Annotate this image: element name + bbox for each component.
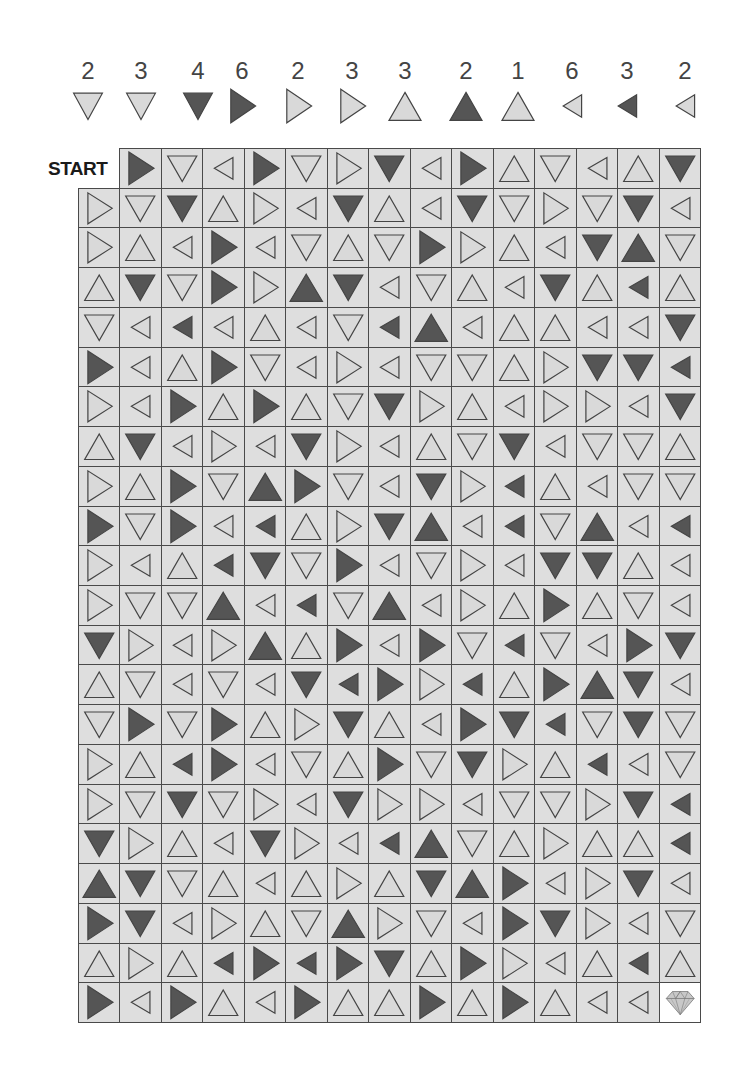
grid-cell[interactable] [493,267,535,308]
grid-cell[interactable] [534,863,576,904]
grid-cell[interactable] [327,426,369,467]
grid-cell[interactable] [202,545,244,586]
grid-cell[interactable] [119,466,161,507]
grid-cell[interactable] [451,188,493,229]
grid-cell[interactable] [285,466,327,507]
grid-cell[interactable] [617,545,659,586]
grid-cell[interactable] [285,943,327,984]
grid-cell[interactable] [78,982,120,1023]
grid-cell[interactable] [451,506,493,547]
grid-cell[interactable] [202,466,244,507]
grid-cell[interactable] [78,188,120,229]
grid-cell[interactable] [368,426,410,467]
grid-cell[interactable] [534,545,576,586]
grid-cell[interactable] [161,704,203,745]
grid-cell[interactable] [161,903,203,944]
grid-cell[interactable] [410,466,452,507]
grid-cell[interactable] [202,188,244,229]
grid-cell[interactable] [534,267,576,308]
grid-cell[interactable] [327,148,369,189]
grid-cell[interactable] [451,227,493,268]
grid-cell[interactable] [534,227,576,268]
grid-cell[interactable] [451,784,493,825]
grid-cell[interactable] [327,704,369,745]
grid-cell[interactable] [202,704,244,745]
grid-cell[interactable] [410,784,452,825]
grid-cell[interactable] [368,982,410,1023]
grid-cell[interactable] [161,386,203,427]
grid-cell[interactable] [285,823,327,864]
grid-cell[interactable] [493,506,535,547]
grid-cell[interactable] [368,545,410,586]
grid-cell[interactable] [617,585,659,626]
grid-cell[interactable] [451,267,493,308]
grid-cell[interactable] [327,506,369,547]
grid-cell[interactable] [617,744,659,785]
grid-cell[interactable] [285,863,327,904]
grid-cell[interactable] [451,744,493,785]
grid-cell[interactable] [119,585,161,626]
grid-cell[interactable] [78,625,120,666]
grid-cell[interactable] [78,307,120,348]
grid-cell[interactable] [119,545,161,586]
grid-cell[interactable] [327,347,369,388]
grid-cell[interactable] [78,386,120,427]
grid-cell[interactable] [78,704,120,745]
grid-cell[interactable] [576,704,618,745]
grid-cell[interactable] [493,664,535,705]
goal-cell[interactable] [659,982,701,1023]
grid-cell[interactable] [410,903,452,944]
grid-cell[interactable] [493,545,535,586]
grid-cell[interactable] [493,307,535,348]
grid-cell[interactable] [244,982,286,1023]
grid-cell[interactable] [493,744,535,785]
grid-cell[interactable] [78,823,120,864]
grid-cell[interactable] [617,386,659,427]
grid-cell[interactable] [493,347,535,388]
grid-cell[interactable] [202,664,244,705]
grid-cell[interactable] [493,903,535,944]
grid-cell[interactable] [451,943,493,984]
grid-cell[interactable] [659,426,701,467]
grid-cell[interactable] [327,903,369,944]
grid-cell[interactable] [493,188,535,229]
grid-cell[interactable] [410,744,452,785]
grid-cell[interactable] [451,863,493,904]
grid-cell[interactable] [410,664,452,705]
grid-cell[interactable] [493,943,535,984]
grid-cell[interactable] [202,744,244,785]
grid-cell[interactable] [534,466,576,507]
grid-cell[interactable] [78,784,120,825]
grid-cell[interactable] [410,545,452,586]
grid-cell[interactable] [285,545,327,586]
grid-cell[interactable] [410,267,452,308]
grid-cell[interactable] [534,982,576,1023]
grid-cell[interactable] [617,823,659,864]
grid-cell[interactable] [576,744,618,785]
grid-cell[interactable] [493,823,535,864]
grid-cell[interactable] [659,227,701,268]
grid-cell[interactable] [119,148,161,189]
grid-cell[interactable] [161,823,203,864]
grid-cell[interactable] [368,744,410,785]
grid-cell[interactable] [617,188,659,229]
grid-cell[interactable] [368,148,410,189]
grid-cell[interactable] [368,784,410,825]
grid-cell[interactable] [285,148,327,189]
grid-cell[interactable] [202,863,244,904]
grid-cell[interactable] [78,227,120,268]
grid-cell[interactable] [78,863,120,904]
grid-cell[interactable] [244,188,286,229]
grid-cell[interactable] [493,982,535,1023]
grid-cell[interactable] [327,625,369,666]
grid-cell[interactable] [119,784,161,825]
grid-cell[interactable] [244,903,286,944]
grid-cell[interactable] [202,903,244,944]
grid-cell[interactable] [576,625,618,666]
grid-cell[interactable] [244,664,286,705]
grid-cell[interactable] [451,426,493,467]
grid-cell[interactable] [202,267,244,308]
grid-cell[interactable] [534,625,576,666]
grid-cell[interactable] [244,426,286,467]
grid-cell[interactable] [161,466,203,507]
